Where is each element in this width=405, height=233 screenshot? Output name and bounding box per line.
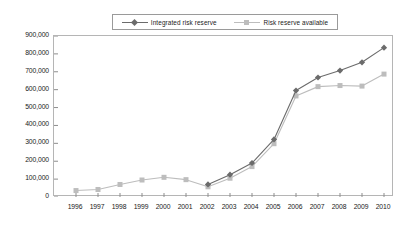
- y-axis: 0100,000200,000300,000400,000500,000600,…: [0, 28, 49, 203]
- y-tick-label: 800,000: [0, 49, 49, 57]
- legend-label-integrated-risk-reserve: Integrated risk reserve: [151, 19, 217, 26]
- y-tick-label: 0: [0, 192, 49, 200]
- legend-label-risk-reserve-available: Risk reserve available: [263, 19, 328, 26]
- y-tick-label: 600,000: [0, 85, 49, 93]
- x-tick-label: 2010: [368, 203, 398, 210]
- plot-area: [53, 35, 393, 196]
- plot-svg: [54, 36, 394, 197]
- y-tick-label: 700,000: [0, 67, 49, 75]
- legend-entry-risk-reserve-available: Risk reserve available: [234, 18, 328, 27]
- chart-container: Integrated risk reserve Risk reserve ava…: [0, 0, 405, 233]
- y-tick-label: 500,000: [0, 103, 49, 111]
- y-tick-label: 900,000: [0, 31, 49, 39]
- y-tick-label: 400,000: [0, 120, 49, 128]
- chart-legend: Integrated risk reserve Risk reserve ava…: [112, 14, 338, 30]
- x-axis: 1996199719981999200020012002200320042005…: [53, 199, 393, 219]
- y-tick-label: 300,000: [0, 138, 49, 146]
- y-tick-label: 100,000: [0, 174, 49, 182]
- y-tick-label: 200,000: [0, 156, 49, 164]
- legend-marker-diamond-icon: [122, 18, 148, 27]
- legend-entry-integrated-risk-reserve: Integrated risk reserve: [122, 18, 217, 27]
- legend-marker-square-icon: [234, 18, 260, 27]
